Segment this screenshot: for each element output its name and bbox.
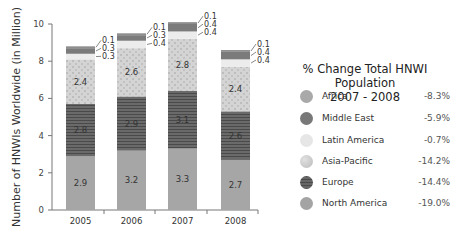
y-tick-label: 6 <box>39 93 44 103</box>
bar-value-label: 2.9 <box>125 119 139 129</box>
legend-value: -14.2% <box>418 156 450 166</box>
legend-item-middle-east: Middle East -5.9% <box>276 111 454 127</box>
bar-callout-label: 0.4 <box>257 56 270 65</box>
x-tick-label: 2008 <box>225 216 247 226</box>
bar-value-label: 2.8 <box>74 125 88 135</box>
bar-callout-label: 0.3 <box>102 44 115 53</box>
bar-callout-label: 0.3 <box>102 52 115 61</box>
bar-callout-label: 0.1 <box>257 40 270 49</box>
legend-item-africa: Africa -8.3% <box>276 89 454 105</box>
legend-value: -0.7% <box>424 135 450 145</box>
bar-callout-label: 0.1 <box>204 12 217 21</box>
bar-segment <box>117 33 146 35</box>
legend-value: -14.4% <box>418 177 450 187</box>
y-axis-label: Number of HNWIs Worldwide (in Million) <box>10 7 23 227</box>
x-tick-label: 2005 <box>70 216 92 226</box>
y-tick-label: 8 <box>39 56 44 66</box>
y-tick-label: 10 <box>33 19 44 29</box>
legend-title-line1: % Change Total HNWI Population <box>276 62 454 90</box>
legend-value: -5.9% <box>424 113 450 123</box>
x-axis: 2005200620072008 <box>52 210 258 226</box>
bar-segment <box>221 59 250 66</box>
legend-label: Middle East <box>322 113 374 123</box>
bar-segment <box>117 35 146 41</box>
europe-swatch-icon <box>300 176 313 189</box>
legend-label: Africa <box>322 91 348 101</box>
legend-label: North America <box>322 198 387 208</box>
bar-value-label: 3.2 <box>125 175 139 185</box>
bar-value-label: 2.4 <box>229 84 243 94</box>
y-tick-label: 0 <box>39 205 44 215</box>
asia-pacific-swatch-icon <box>300 155 313 168</box>
y-tick-label: 4 <box>39 131 44 141</box>
bar-value-label: 2.6 <box>125 67 139 77</box>
north-america-swatch-icon <box>300 197 313 210</box>
legend: % Change Total HNWI Population 2007 - 20… <box>276 62 454 104</box>
bar-callout-label: 0.4 <box>204 28 217 37</box>
bar-segment <box>168 24 197 31</box>
y-axis: 0246810 <box>33 19 52 215</box>
y-tick-label: 2 <box>39 168 44 178</box>
bar-callout-label: 0.1 <box>102 36 115 45</box>
middle-east-swatch-icon <box>300 112 313 125</box>
bar-segment <box>168 22 197 24</box>
bar-callout-label: 0.4 <box>204 20 217 29</box>
bar-value-label: 3.3 <box>176 174 190 184</box>
bar-value-label: 3.1 <box>176 115 190 125</box>
legend-label: Asia-Pacific <box>322 156 373 166</box>
x-tick-label: 2007 <box>172 216 194 226</box>
bar-segment <box>168 31 197 38</box>
legend-item-north-america: North America -19.0% <box>276 196 454 212</box>
bar-callout-label: 0.4 <box>153 39 166 48</box>
legend-label: Latin America <box>322 135 384 145</box>
bar-segment <box>66 48 95 54</box>
bar-segment <box>66 46 95 48</box>
bar-value-label: 2.9 <box>74 178 88 188</box>
bar-callout-label: 0.3 <box>153 31 166 40</box>
legend-label: Europe <box>322 177 354 187</box>
bar-segment <box>221 50 250 52</box>
legend-item-asia-pacific: Asia-Pacific -14.2% <box>276 154 454 170</box>
bar-callout-label: 0.4 <box>257 48 270 57</box>
bar-segment <box>117 41 146 48</box>
bar-value-label: 2.4 <box>74 77 88 87</box>
bar-callout-label: 0.1 <box>153 23 166 32</box>
bar-value-label: 2.6 <box>229 131 243 141</box>
legend-value: -19.0% <box>418 198 450 208</box>
legend-value: -8.3% <box>424 91 450 101</box>
bar-segment <box>66 54 95 60</box>
latin-america-swatch-icon <box>300 134 313 147</box>
bar-value-label: 2.8 <box>176 60 190 70</box>
bar-value-label: 2.7 <box>229 180 243 190</box>
bar-group: 2.92.82.40.30.30.13.22.92.60.40.30.13.33… <box>66 12 270 210</box>
legend-item-europe: Europe -14.4% <box>276 175 454 191</box>
bar-segment <box>221 52 250 59</box>
legend-item-latin-america: Latin America -0.7% <box>276 133 454 149</box>
africa-swatch-icon <box>300 90 313 103</box>
x-tick-label: 2006 <box>121 216 143 226</box>
